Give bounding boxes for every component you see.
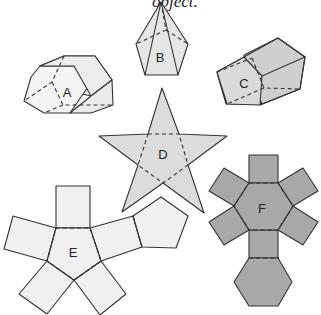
figure-c-pentagonal-prism: C (217, 38, 305, 105)
figure-b-label: B (156, 50, 165, 65)
figure-canvas: A B C D E (0, 0, 321, 315)
figure-e-label: E (69, 245, 78, 260)
figure-d-label: D (158, 147, 167, 162)
figure-a-label: A (63, 85, 72, 100)
figure-b-pentagonal-pyramid: B (136, 2, 188, 75)
figure-a-hexagonal-prism: A (24, 56, 113, 113)
figure-f-hexagonal-prism-net: F (209, 155, 318, 306)
figure-d-star-net: D (99, 88, 227, 213)
figure-c-label: C (239, 76, 248, 91)
figure-e-pentagonal-prism-net: E (4, 186, 188, 315)
figure-f-label: F (258, 201, 266, 216)
